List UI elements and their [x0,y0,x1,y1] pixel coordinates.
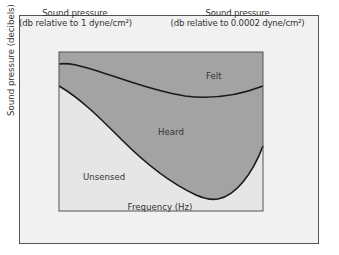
plot-area: Felt Heard Unsensed [0,0,339,255]
y-axis-label: Sound pressure (decibels) [6,0,16,130]
region-label-heard: Heard [158,127,184,137]
region-label-unsensed: Unsensed [83,172,125,182]
x-axis-label: Frequency (Hz) [95,202,225,212]
region-label-felt: Felt [206,71,222,81]
figure: Sound pressure (db relative to 1 dyne/cm… [0,0,339,255]
